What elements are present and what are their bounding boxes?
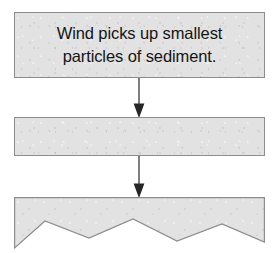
down-arrow-icon-1	[131, 78, 147, 118]
stage-2-sediment-bar	[14, 117, 265, 156]
stage-1-line-1: Wind picks up smallest	[57, 24, 223, 42]
down-arrow-icon-2	[131, 156, 147, 198]
page-title: Wind Erosion	[0, 0, 279, 5]
stage-1-line-2: particles of sediment.	[63, 47, 217, 65]
stage-3-eroded-sediment-bar	[14, 197, 265, 250]
stage-1-text-box: Wind picks up smallest particles of sedi…	[14, 12, 265, 78]
stage-1-label: Wind picks up smallest particles of sedi…	[47, 22, 233, 68]
wind-erosion-diagram: Wind Erosion Wind picks up smallest part…	[0, 0, 279, 253]
